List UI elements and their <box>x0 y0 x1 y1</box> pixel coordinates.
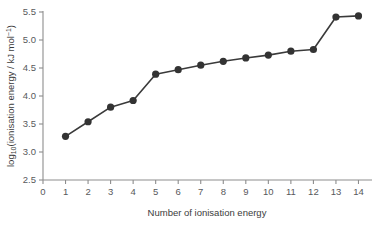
chart-figure: 2.53.03.54.04.55.05.5 012345678910111213… <box>0 0 377 225</box>
data-point-marker <box>242 54 249 61</box>
x-tick-label: 7 <box>198 186 203 197</box>
data-point-marker <box>287 48 294 55</box>
x-tick-label: 11 <box>286 186 296 197</box>
x-tick-label: 1 <box>63 186 68 197</box>
data-point-marker <box>355 12 362 19</box>
data-point-marker <box>107 104 114 111</box>
series-markers <box>62 12 362 140</box>
series-line-path <box>66 16 359 136</box>
data-point-marker <box>332 13 339 20</box>
x-tick-label: 5 <box>153 186 158 197</box>
series-group <box>62 12 362 140</box>
data-point-marker <box>62 133 69 140</box>
y-title-subscript: 10 <box>10 146 17 154</box>
x-axis-title: Number of ionisation energy <box>148 207 267 218</box>
y-tick-label: 4.5 <box>23 62 36 73</box>
x-tick-label: 14 <box>353 186 364 197</box>
y-tick-label: 5.0 <box>23 34 36 45</box>
y-tick-label: 4.0 <box>23 90 36 101</box>
y-axis-title-text: log10(ionisation energy / kJ mol−1) <box>5 25 17 167</box>
data-point-marker <box>220 58 227 65</box>
x-tick-label: 6 <box>176 186 181 197</box>
y-title-middle: (ionisation energy / kJ mol <box>5 36 16 146</box>
y-title-superscript: −1 <box>5 28 12 36</box>
y-title-prefix: log <box>5 154 16 167</box>
x-axis-ticks: 01234567891011121314 <box>40 180 363 197</box>
y-axis-ticks: 2.53.03.54.04.55.05.5 <box>23 6 43 185</box>
x-tick-label: 2 <box>85 186 90 197</box>
x-tick-label: 12 <box>308 186 319 197</box>
data-point-marker <box>197 62 204 69</box>
x-tick-label: 8 <box>221 186 226 197</box>
y-tick-label: 2.5 <box>23 174 36 185</box>
y-axis-title: log10(ionisation energy / kJ mol−1) <box>5 25 17 167</box>
ionisation-energy-line-chart: 2.53.03.54.04.55.05.5 012345678910111213… <box>0 0 377 225</box>
data-point-marker <box>152 71 159 78</box>
data-point-marker <box>265 52 272 59</box>
x-tick-label: 9 <box>243 186 248 197</box>
x-tick-label: 0 <box>40 186 45 197</box>
y-tick-label: 3.0 <box>23 146 36 157</box>
x-tick-label: 3 <box>108 186 113 197</box>
x-tick-label: 10 <box>263 186 274 197</box>
x-tick-label: 4 <box>130 186 135 197</box>
y-tick-label: 5.5 <box>23 6 36 17</box>
data-point-marker <box>310 46 317 53</box>
data-point-marker <box>130 97 137 104</box>
y-title-suffix: ) <box>5 25 16 28</box>
y-tick-label: 3.5 <box>23 118 36 129</box>
data-point-marker <box>84 118 91 125</box>
x-tick-label: 13 <box>331 186 342 197</box>
data-point-marker <box>175 66 182 73</box>
